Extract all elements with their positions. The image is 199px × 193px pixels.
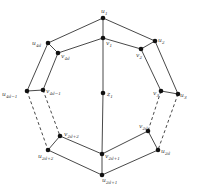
labels-layer: u1v1u2v2u3v3u4dv4du4d−1v4d−1z1v2du2dv2d+…: [2, 7, 187, 185]
node-label-v2d+1: v2d+1: [105, 152, 120, 161]
node-label-u4d-1: u4d−1: [2, 90, 17, 99]
node-label-v2: v2: [136, 51, 142, 60]
edge-v4d-1-v2d+2: [43, 90, 60, 136]
graph-diagram: u1v1u2v2u3v3u4dv4du4d−1v4d−1z1v2du2dv2d+…: [0, 0, 199, 193]
node-label-v4d: v4d: [61, 52, 70, 61]
node-label-v4d-1: v4d−1: [46, 87, 61, 96]
node-u4d: [46, 41, 51, 46]
edge-u4d-u4d-1: [27, 43, 48, 91]
node-label-v2d: v2d: [139, 122, 148, 131]
graph-svg: u1v1u2v2u3v3u4dv4du4d−1v4d−1z1v2du2dv2d+…: [0, 0, 199, 193]
node-u2: [153, 39, 158, 44]
node-v4d-1: [41, 88, 46, 93]
edge-u4d-1-u2d+2: [27, 91, 48, 150]
edge-u1-u2: [103, 18, 155, 41]
edge-v2-v3: [141, 49, 161, 91]
edge-v2d-u2d: [148, 131, 158, 150]
edge-u2d+2-u2d+1: [48, 150, 102, 175]
node-label-v2d+2: v2d+2: [64, 130, 79, 139]
node-label-u2d: u2d: [161, 147, 171, 156]
node-v3: [159, 89, 164, 94]
edge-u3-u2d: [158, 94, 178, 150]
node-u2d+2: [46, 148, 51, 153]
edge-v2d+2-u2d+2: [48, 136, 60, 150]
edge-z1-v2d+1: [102, 93, 103, 154]
edge-u2d+1-u2d: [102, 150, 158, 175]
edge-v4d-v4d-1: [43, 53, 58, 90]
node-label-v3: v3: [153, 89, 159, 98]
node-z1: [101, 91, 106, 96]
node-label-u3: u3: [180, 91, 187, 100]
edge-v1-v4d: [58, 38, 103, 53]
node-v1: [101, 36, 106, 41]
edge-v2d+1-v2d: [102, 131, 148, 154]
node-label-u2d+1: u2d+1: [102, 176, 117, 185]
node-u4d-1: [25, 89, 30, 94]
node-v4d: [56, 51, 61, 56]
edge-u1-u4d: [48, 18, 103, 43]
node-label-u1: u1: [101, 7, 108, 16]
edge-v2d+2-v2d+1: [60, 136, 102, 154]
edge-v3-u3: [161, 91, 178, 94]
node-u1: [101, 16, 106, 21]
edge-u2-v2: [141, 41, 155, 49]
node-u2d: [156, 148, 161, 153]
node-label-u2: u2: [158, 36, 165, 45]
node-label-u4d: u4d: [32, 39, 42, 48]
node-v2d+2: [58, 134, 63, 139]
edge-u4d-1-v4d-1: [27, 90, 43, 91]
node-label-z1: z1: [106, 90, 113, 99]
node-label-u2d+2: u2d+2: [38, 152, 54, 161]
node-v2d+1: [100, 152, 105, 157]
